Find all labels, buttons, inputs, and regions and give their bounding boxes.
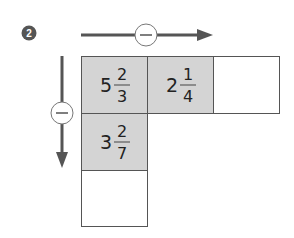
svg-text:4: 4	[183, 87, 193, 106]
problem-number: 2	[26, 28, 32, 39]
problem-number-badge: 2	[22, 26, 37, 41]
svg-text:7: 7	[117, 144, 127, 163]
svg-text:2: 2	[166, 74, 178, 96]
svg-text:3: 3	[117, 87, 127, 106]
cell-r1c3-answer[interactable]	[214, 57, 280, 114]
svg-text:3: 3	[100, 131, 112, 153]
diagram: 2 5 2 3 2 1 4 3 2 7	[0, 0, 294, 238]
cell-r3c1-answer[interactable]	[82, 171, 148, 227]
svg-text:1: 1	[183, 65, 193, 84]
svg-text:2: 2	[117, 65, 127, 84]
vertical-subtract-arrow	[51, 56, 73, 168]
horizontal-subtract-arrow	[81, 24, 213, 46]
svg-text:2: 2	[117, 122, 127, 141]
svg-text:5: 5	[100, 74, 112, 96]
